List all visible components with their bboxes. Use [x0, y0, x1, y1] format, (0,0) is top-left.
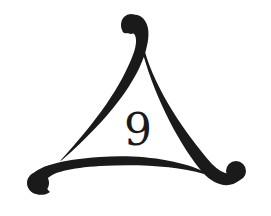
bottom-stroke	[27, 156, 205, 195]
triangle-figure: 9	[0, 0, 271, 216]
triangle-diagram: 9	[0, 0, 271, 216]
center-number: 9	[124, 104, 152, 155]
